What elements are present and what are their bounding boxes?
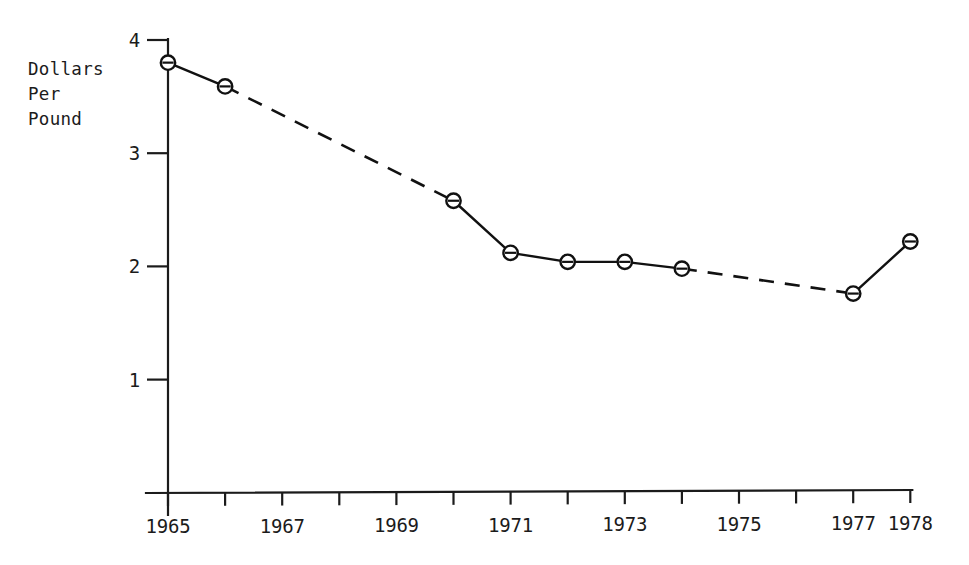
line-segment-solid-1973-1974 [625, 262, 682, 269]
data-point-1970 [446, 194, 460, 208]
line-segment-solid-1965-1966 [168, 63, 225, 87]
x-tick-label-1977: 1977 [831, 512, 876, 534]
line-segment-dashed-1966-1970 [225, 86, 453, 200]
line-segment-solid-1977-1978 [853, 241, 910, 293]
x-tick-label-1978: 1978 [888, 512, 933, 534]
x-tick-label-1973: 1973 [602, 513, 647, 535]
line-chart: 1234 19651967196919711973197519771978 [0, 0, 969, 565]
data-point-1971 [503, 246, 517, 260]
data-point-1966 [218, 79, 232, 93]
x-tick-label-1975: 1975 [717, 513, 762, 535]
data-point-1978 [903, 234, 917, 248]
y-tick-label-4: 4 [129, 29, 140, 51]
x-tick-label-1965: 1965 [146, 515, 191, 537]
data-series-line [168, 63, 910, 294]
x-axis-spine [146, 490, 912, 493]
y-tick-label-3: 3 [129, 142, 140, 164]
y-tick-label-2: 2 [129, 255, 140, 277]
data-point-1974 [675, 261, 689, 275]
data-point-1977 [846, 286, 860, 300]
line-segment-solid-1970-1971 [454, 201, 511, 253]
chart-page: DollarsPerPound 1234 1965196719691971197… [0, 0, 969, 565]
x-tick-label-1969: 1969 [374, 514, 419, 536]
chart-axes [146, 39, 912, 515]
data-point-1965 [161, 55, 175, 69]
x-tick-label-1967: 1967 [260, 515, 305, 537]
line-segment-dashed-1974-1977 [682, 269, 853, 294]
y-axis-ticks [147, 40, 168, 380]
data-point-1973 [618, 255, 632, 269]
y-axis-tick-labels: 1234 [129, 29, 140, 391]
y-tick-label-1: 1 [129, 369, 140, 391]
x-axis-tick-labels: 19651967196919711973197519771978 [146, 512, 933, 537]
line-segment-solid-1971-1972 [511, 253, 568, 262]
data-point-1972 [561, 255, 575, 269]
data-point-markers [161, 55, 918, 300]
x-tick-label-1971: 1971 [488, 514, 533, 536]
